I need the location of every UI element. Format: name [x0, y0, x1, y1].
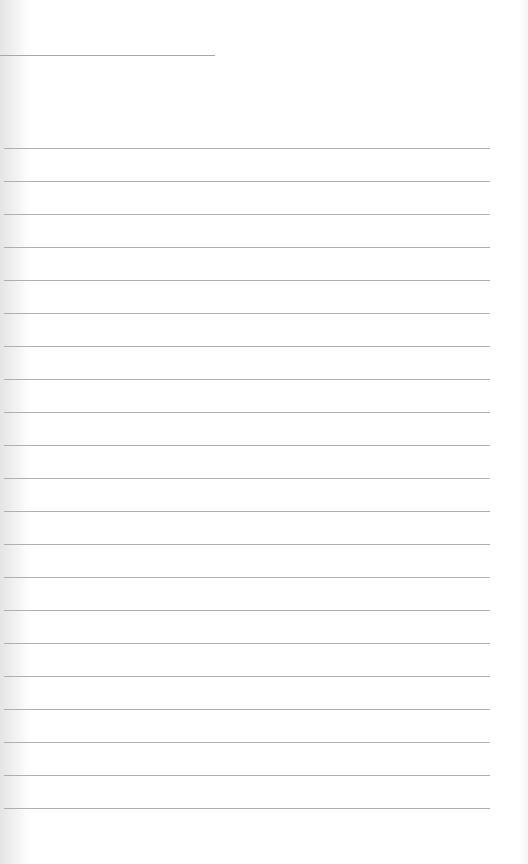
ruled-line [4, 280, 490, 281]
ruled-line [4, 445, 490, 446]
ruled-line [4, 214, 490, 215]
ruled-line [4, 247, 490, 248]
ruled-line [4, 709, 490, 710]
ruled-line [4, 643, 490, 644]
page-edge-shadow [0, 0, 30, 864]
ruled-line [4, 775, 490, 776]
ruled-line [4, 478, 490, 479]
ruled-line [4, 511, 490, 512]
ruled-line [4, 148, 490, 149]
ruled-line [4, 577, 490, 578]
ruled-line [4, 544, 490, 545]
ruled-line [4, 412, 490, 413]
ruled-line [4, 676, 490, 677]
ruled-line [4, 346, 490, 347]
title-line [0, 55, 215, 56]
ruled-line [4, 610, 490, 611]
ruled-line [4, 181, 490, 182]
notepad-page [0, 0, 528, 864]
ruled-line [4, 379, 490, 380]
ruled-line [4, 808, 490, 809]
page-edge-shadow-right [518, 0, 528, 864]
ruled-line [4, 313, 490, 314]
ruled-line [4, 742, 490, 743]
